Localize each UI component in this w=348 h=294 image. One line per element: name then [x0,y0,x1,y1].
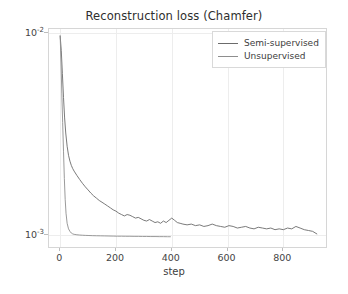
y-tick-label: 10-3 [2,228,44,240]
x-tick-label: 400 [151,252,191,263]
y-tick-label: 10-2 [2,26,44,38]
x-tick-label: 0 [39,252,79,263]
x-tick-mark [59,248,60,251]
legend-item: Unsupervised [218,50,320,62]
y-tick-mark [44,234,48,235]
x-tick-mark [171,248,172,251]
legend-label: Semi-supervised [244,38,319,49]
x-tick-label: 800 [262,252,302,263]
legend-line-swatch [218,43,238,44]
x-tick-mark [115,248,116,251]
legend-label: Unsupervised [244,51,305,62]
legend-line-swatch [218,56,238,57]
chart-title: Reconstruction loss (Chamfer) [0,9,348,23]
series-line [60,36,170,237]
x-tick-mark [227,248,228,251]
x-axis-label: step [0,266,348,277]
x-tick-mark [282,248,283,251]
x-tick-label: 200 [95,252,135,263]
y-tick-mark [44,32,48,33]
legend-item: Semi-supervised [218,37,320,49]
x-tick-label: 600 [207,252,247,263]
chart-figure: Reconstruction loss (Chamfer) 10-210-3 0… [0,0,348,294]
chart-legend: Semi-supervisedUnsupervised [212,31,326,68]
